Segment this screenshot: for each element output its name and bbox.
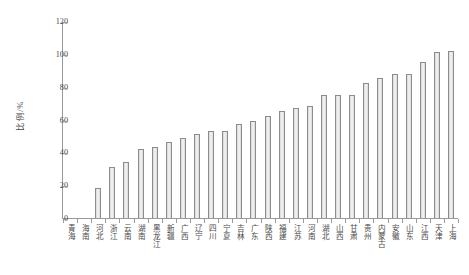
- x-tick-mark: [458, 219, 459, 223]
- bar: [406, 74, 412, 218]
- x-tick-label: 福建: [277, 224, 286, 240]
- x-tick-mark: [430, 219, 431, 223]
- x-tick-slot: [91, 219, 105, 223]
- bar: [363, 83, 369, 218]
- x-label-slot: 陕西: [261, 224, 275, 272]
- x-label-slot: 江西: [416, 224, 430, 272]
- x-tick-label: 新疆: [165, 224, 174, 240]
- x-label-slot: 山东: [402, 224, 416, 272]
- bar: [392, 74, 398, 218]
- x-label-slot: 河南: [303, 224, 317, 272]
- x-tick-slot: [63, 219, 77, 223]
- y-tick-label: 0: [28, 214, 68, 224]
- x-tick-mark: [444, 219, 445, 223]
- bar-slot: [444, 22, 458, 218]
- x-tick-label: 海南: [80, 224, 89, 240]
- bar: [377, 78, 383, 218]
- bar: [152, 147, 158, 218]
- x-tick-slot: [416, 219, 430, 223]
- bar-slot: [218, 22, 232, 218]
- x-tick-label: 云南: [122, 224, 131, 240]
- x-tick-mark: [77, 219, 78, 223]
- x-label-slot: 内蒙古: [373, 224, 387, 272]
- x-tick-slot: [148, 219, 162, 223]
- x-tick-label: 贵州: [362, 224, 371, 240]
- x-tick-mark: [162, 219, 163, 223]
- x-tick-label: 湖北: [320, 224, 329, 240]
- bar-slot: [331, 22, 345, 218]
- bar: [208, 131, 214, 218]
- y-tick-label: 60: [28, 116, 68, 126]
- x-tick-mark: [218, 219, 219, 223]
- x-tick-label: 四川: [207, 224, 216, 240]
- x-tick-label: 山西: [334, 224, 343, 240]
- x-tick-slot: [134, 219, 148, 223]
- x-tick-slot: [402, 219, 416, 223]
- x-tick-mark: [359, 219, 360, 223]
- bar-slot: [345, 22, 359, 218]
- bar: [420, 62, 426, 218]
- x-tick-label: 天津: [433, 224, 442, 240]
- y-tick-label: 80: [28, 83, 68, 93]
- x-tick-mark: [204, 219, 205, 223]
- bar: [166, 142, 172, 218]
- x-tick-slot: [331, 219, 345, 223]
- x-tick-slot: [345, 219, 359, 223]
- x-label-slot: 福建: [275, 224, 289, 272]
- x-label-slot: 安徽: [388, 224, 402, 272]
- bar-slot: [232, 22, 246, 218]
- x-tick-mark: [275, 219, 276, 223]
- x-tick-label: 河南: [306, 224, 315, 240]
- bar: [180, 138, 186, 218]
- bar-slot: [246, 22, 260, 218]
- x-label-slot: 广东: [246, 224, 260, 272]
- bar: [138, 149, 144, 218]
- x-tick-mark: [148, 219, 149, 223]
- x-tick-slot: [444, 219, 458, 223]
- x-label-slot: 辽宁: [190, 224, 204, 272]
- bar-slot: [317, 22, 331, 218]
- bar: [349, 95, 355, 218]
- bar-slot: [91, 22, 105, 218]
- x-tick-mark: [176, 219, 177, 223]
- x-tick-label: 黑龙江: [150, 224, 159, 248]
- x-tick-mark: [416, 219, 417, 223]
- x-tick-slot: [77, 219, 91, 223]
- x-tick-mark: [232, 219, 233, 223]
- bar: [194, 134, 200, 218]
- x-tick-mark: [63, 219, 64, 223]
- x-tick-mark: [402, 219, 403, 223]
- bar: [293, 108, 299, 218]
- bar-slot: [63, 22, 77, 218]
- x-tick-slot: [105, 219, 119, 223]
- bar-slot: [373, 22, 387, 218]
- x-tick-slot: [190, 219, 204, 223]
- x-label-slot: 海南: [77, 224, 91, 272]
- y-tick-label: 100: [28, 50, 68, 60]
- x-tick-label: 江苏: [292, 224, 301, 240]
- x-tick-slot: [303, 219, 317, 223]
- x-label-slot: 上海: [444, 224, 458, 272]
- x-label-slot: 吉林: [232, 224, 246, 272]
- x-tick-mark: [134, 219, 135, 223]
- bar: [250, 121, 256, 218]
- x-tick-mark: [289, 219, 290, 223]
- x-tick-slot: [317, 219, 331, 223]
- bar: [434, 52, 440, 218]
- bar-slot: [204, 22, 218, 218]
- x-label-slot: 青海: [63, 224, 77, 272]
- x-label-slot: 浙江: [105, 224, 119, 272]
- bar-slot: [303, 22, 317, 218]
- x-tick-mark: [246, 219, 247, 223]
- x-tick-label: 浙江: [108, 224, 117, 240]
- x-tick-label: 广东: [249, 224, 258, 240]
- bar-slot: [430, 22, 444, 218]
- bar: [307, 106, 313, 218]
- bar: [335, 95, 341, 218]
- x-tick-slot: [373, 219, 387, 223]
- bar-slot: [261, 22, 275, 218]
- x-tick-mark: [345, 219, 346, 223]
- x-label-slot: 贵州: [359, 224, 373, 272]
- x-tick-label: 安徽: [390, 224, 399, 240]
- x-tick-slot: [162, 219, 176, 223]
